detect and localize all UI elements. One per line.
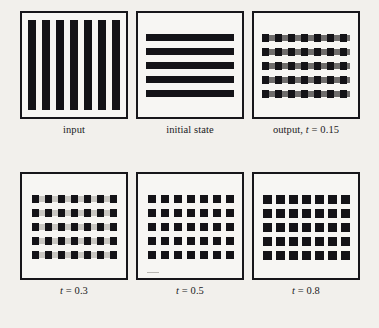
lattice-node	[275, 62, 282, 70]
lattice-node	[301, 62, 308, 70]
lattice-node	[213, 223, 221, 231]
lattice-node	[226, 209, 234, 217]
lattice-node	[45, 237, 52, 245]
lattice-node	[174, 223, 182, 231]
lattice-node	[58, 251, 65, 259]
lattice-node	[84, 223, 91, 231]
lattice-node	[97, 209, 104, 217]
lattice-node	[301, 90, 308, 98]
lattice-node	[314, 48, 321, 56]
panel-caption-t-0-8: t = 0.8	[252, 284, 360, 298]
lattice-node	[226, 237, 234, 245]
lattice-node	[275, 90, 282, 98]
lattice-node	[275, 48, 282, 56]
lattice-node	[341, 195, 350, 204]
lattice-node	[32, 251, 39, 259]
panel-caption-t-0-3: t = 0.3	[20, 284, 128, 298]
panel-output-t-0-5: t = 0.5	[136, 172, 244, 300]
lattice-node	[341, 251, 350, 260]
lattice-node	[262, 76, 269, 84]
lattice-node	[226, 251, 234, 259]
lattice-node	[314, 34, 321, 42]
vertical-stripe	[112, 20, 120, 110]
lattice-node	[301, 76, 308, 84]
caption-equals: =	[182, 285, 188, 296]
lattice-node	[32, 209, 39, 217]
lattice-node	[161, 251, 169, 259]
lattice-node	[32, 195, 39, 203]
caption-variable: t	[176, 285, 179, 296]
lattice-node	[226, 195, 234, 203]
panel-plot-t-0-8	[254, 174, 358, 278]
lattice-node	[315, 223, 324, 232]
panel-caption-t-0-15: output, t = 0.15	[252, 123, 360, 137]
lattice-node	[276, 237, 285, 246]
lattice-node	[213, 237, 221, 245]
horizontal-stripe	[146, 62, 234, 69]
lattice-node	[213, 251, 221, 259]
lattice-node	[341, 223, 350, 232]
panel-caption-t-0-5: t = 0.5	[136, 284, 244, 298]
lattice-node	[45, 195, 52, 203]
lattice-node	[302, 209, 311, 218]
horizontal-stripe	[146, 90, 234, 97]
lattice-node	[174, 237, 182, 245]
panel-output-t-0-3: t = 0.3	[20, 172, 128, 300]
lattice-node	[289, 223, 298, 232]
lattice-node	[328, 195, 337, 204]
horizontal-stripe	[146, 34, 234, 41]
lattice-node	[341, 237, 350, 246]
lattice-node	[200, 223, 208, 231]
lattice-node	[84, 237, 91, 245]
lattice-node	[58, 209, 65, 217]
lattice-node	[110, 237, 117, 245]
lattice-node	[161, 237, 169, 245]
lattice-node	[161, 209, 169, 217]
lattice-node	[327, 76, 334, 84]
lattice-node	[289, 251, 298, 260]
caption-equals: =	[312, 124, 318, 135]
panel-frame	[136, 11, 244, 119]
lattice-node	[302, 223, 311, 232]
horizontal-stripe	[146, 48, 234, 55]
lattice-node	[71, 237, 78, 245]
lattice-node	[58, 237, 65, 245]
lattice-node	[315, 237, 324, 246]
lattice-node	[148, 209, 156, 217]
lattice-node	[340, 34, 347, 42]
lattice-node	[340, 76, 347, 84]
lattice-node	[174, 251, 182, 259]
lattice-node	[71, 223, 78, 231]
lattice-node	[301, 34, 308, 42]
panel-frame	[20, 172, 128, 280]
lattice-node	[58, 223, 65, 231]
lattice-node	[289, 195, 298, 204]
panel-initial-state: initial state	[136, 11, 244, 139]
caption-variable: t	[292, 285, 295, 296]
lattice-node	[110, 195, 117, 203]
lattice-node	[314, 76, 321, 84]
lattice-node	[327, 90, 334, 98]
vertical-stripe	[56, 20, 64, 110]
lattice-node	[327, 34, 334, 42]
lattice-node	[71, 209, 78, 217]
vertical-stripe	[28, 20, 36, 110]
lattice-node	[200, 209, 208, 217]
vertical-stripe	[70, 20, 78, 110]
vertical-stripe	[42, 20, 50, 110]
lattice-node	[275, 34, 282, 42]
lattice-node	[97, 237, 104, 245]
panel-plot-input	[22, 13, 126, 117]
panel-output-t-0-8: t = 0.8	[252, 172, 360, 300]
lattice-node	[276, 209, 285, 218]
lattice-node	[328, 209, 337, 218]
lattice-node	[327, 48, 334, 56]
lattice-node	[32, 237, 39, 245]
lattice-node	[315, 195, 324, 204]
lattice-node	[341, 209, 350, 218]
lattice-node	[302, 237, 311, 246]
horizontal-stripe	[146, 76, 234, 83]
caption-variable: t	[306, 124, 309, 135]
lattice-node	[263, 223, 272, 232]
caption-variable: t	[60, 285, 63, 296]
